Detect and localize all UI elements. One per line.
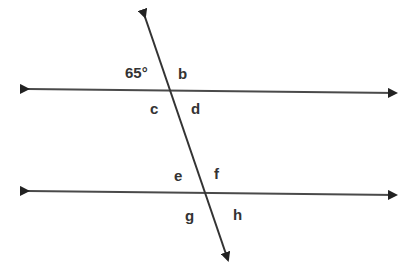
diagram-lines [0, 0, 417, 277]
angle-c-label: c [150, 101, 158, 116]
angle-b-label: b [178, 66, 187, 81]
angle-g-label: g [185, 208, 194, 223]
angle-e-label: e [174, 168, 182, 183]
angle-h-label: h [233, 207, 242, 222]
upper-parallel-line [28, 89, 396, 93]
angle-d-label: d [191, 101, 200, 116]
diagram-canvas: 65° b c d e f g h [0, 0, 417, 277]
angle-65-label: 65° [125, 65, 148, 80]
angle-f-label: f [214, 166, 219, 181]
lower-parallel-line [28, 191, 396, 195]
